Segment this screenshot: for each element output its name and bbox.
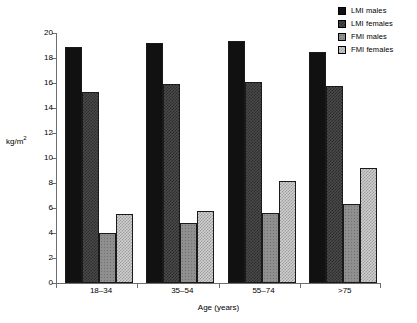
y-axis-tick-label: 10 — [44, 154, 53, 162]
bar[interactable] — [343, 204, 360, 283]
bar[interactable] — [279, 181, 296, 284]
legend-item[interactable]: LMI females — [338, 18, 416, 29]
legend-label: LMI males — [351, 6, 387, 15]
y-axis-title-exponent: 2 — [23, 135, 26, 141]
y-axis-tick-label: 0 — [49, 279, 53, 287]
legend-swatch-icon — [338, 20, 346, 28]
y-axis-tick-label: 12 — [44, 129, 53, 137]
x-axis-tick-label: 18–34 — [90, 286, 112, 295]
bar[interactable] — [309, 52, 326, 283]
y-axis-title-text: kg/m — [6, 137, 23, 146]
bar[interactable] — [228, 41, 245, 284]
bar[interactable] — [197, 211, 214, 284]
x-axis-tick — [56, 284, 57, 288]
bar[interactable] — [82, 92, 99, 283]
bar-group — [146, 33, 218, 283]
bar-group — [65, 33, 137, 283]
bar[interactable] — [163, 84, 180, 283]
x-axis-tick-label: 55–74 — [252, 286, 274, 295]
bar[interactable] — [326, 86, 343, 284]
y-axis-tick-label: 4 — [49, 229, 53, 237]
y-axis-tick-label: 6 — [49, 204, 53, 212]
y-axis-tick-label: 14 — [44, 104, 53, 112]
y-axis-tick-label: 18 — [44, 54, 53, 62]
bar[interactable] — [99, 233, 116, 283]
bar[interactable] — [262, 213, 279, 283]
bar-group — [309, 33, 381, 283]
legend-swatch-icon — [338, 7, 346, 15]
y-axis-line — [56, 33, 57, 284]
x-axis-title: Age (years) — [56, 303, 381, 312]
bar[interactable] — [180, 223, 197, 283]
bar[interactable] — [146, 43, 163, 283]
bar[interactable] — [116, 214, 133, 283]
plot-area: 02468101214161820 18–3435–5455–74>75 Age… — [56, 33, 381, 284]
legend-item[interactable]: LMI males — [338, 5, 416, 16]
x-axis-tick — [380, 284, 381, 288]
x-axis-tick — [219, 284, 220, 288]
legend-label: LMI females — [351, 19, 393, 28]
y-axis-tick-label: 2 — [49, 254, 53, 262]
y-axis-tick-label: 16 — [44, 79, 53, 87]
bar[interactable] — [360, 168, 377, 283]
y-axis-tick-label: 20 — [44, 29, 53, 37]
bar-group — [228, 33, 300, 283]
y-axis-title: kg/m2 — [6, 137, 27, 146]
y-axis-tick-label: 8 — [49, 179, 53, 187]
bar[interactable] — [65, 47, 82, 283]
x-axis-tick — [300, 284, 301, 288]
x-axis-tick — [137, 284, 138, 288]
bar[interactable] — [245, 82, 262, 283]
x-axis-tick-label: >75 — [338, 286, 352, 295]
x-axis-tick-label: 35–54 — [171, 286, 193, 295]
